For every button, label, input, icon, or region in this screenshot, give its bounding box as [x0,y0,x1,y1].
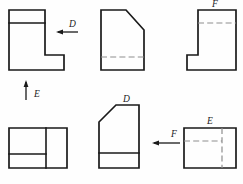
view-bottom-right-outline [184,128,236,168]
direction-arrow-d-top: D [56,19,78,34]
view-bottom-middle [99,105,139,168]
view-top-right [187,10,236,70]
view-top-middle-outline [101,10,144,70]
arrow-label-f-bottom: F [170,129,177,139]
arrow-f-head-icon [152,141,159,146]
arrow-e-head-icon [24,80,29,87]
arrow-label-d-top: D [68,19,76,29]
view-top-middle [101,10,144,70]
view-bottom-middle-outline [99,105,139,168]
direction-arrow-e-left: E [24,80,40,100]
orthographic-drawing-canvas: D E F F D E [0,0,243,184]
view-label-e-bottom-right: E [206,116,213,126]
view-label-d-bottom: D [122,94,130,104]
view-top-left [9,10,64,70]
view-top-right-outline [187,10,236,70]
arrow-label-e-left: E [33,89,40,99]
view-bottom-left [9,128,67,168]
arrow-d-head-icon [56,30,63,35]
view-bottom-right [184,128,236,168]
drawing-sheet: D E F F D E [0,0,243,184]
view-label-f-top-right: F [211,0,218,9]
direction-arrow-f-bottom: F [152,129,180,145]
view-top-left-outline [9,10,64,70]
view-bottom-left-outline [9,128,67,168]
